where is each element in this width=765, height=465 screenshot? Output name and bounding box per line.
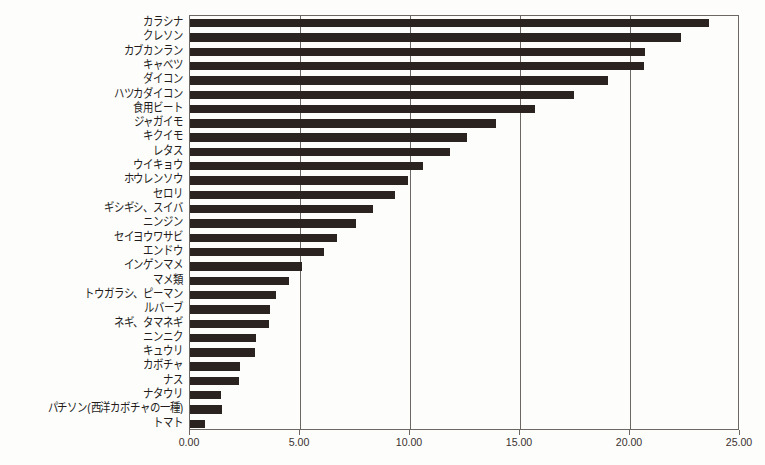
bar-row	[190, 331, 740, 345]
plot-area	[189, 15, 739, 430]
x-tick	[519, 430, 520, 435]
bar-row	[190, 145, 740, 159]
bar	[190, 405, 222, 413]
bar	[190, 320, 269, 328]
bar-rows	[190, 16, 738, 429]
bar	[190, 262, 302, 270]
bar-row	[190, 88, 740, 102]
bar	[190, 62, 644, 70]
bar-row	[190, 102, 740, 116]
bar	[190, 148, 450, 156]
bar-row	[190, 159, 740, 173]
bar-row	[190, 216, 740, 230]
bar-row	[190, 231, 740, 245]
bar	[190, 162, 423, 170]
category-label: トマト	[153, 414, 183, 431]
bar-row	[190, 374, 740, 388]
x-tick-label: 10.00	[396, 436, 423, 448]
bar-row	[190, 402, 740, 416]
bar	[190, 33, 681, 41]
bar-row	[190, 288, 740, 302]
bar-row	[190, 45, 740, 59]
bar	[190, 291, 276, 299]
bar-row	[190, 130, 740, 144]
bar-row	[190, 245, 740, 259]
bar	[190, 133, 467, 141]
bar	[190, 348, 255, 356]
bar-row	[190, 274, 740, 288]
bar	[190, 305, 270, 313]
bar-row	[190, 30, 740, 44]
bar	[190, 19, 709, 27]
bar-chart: カラシナクレソンカブカンランキャベツダイコンハツカダイコン食用ビートジャガイモキ…	[0, 0, 765, 465]
x-tick	[739, 430, 740, 435]
bar	[190, 248, 324, 256]
x-tick	[409, 430, 410, 435]
bar	[190, 391, 221, 399]
x-tick-label: 0.00	[179, 436, 200, 448]
bar	[190, 176, 408, 184]
bar-row	[190, 73, 740, 87]
x-tick	[189, 430, 190, 435]
bar-row	[190, 16, 740, 30]
bar	[190, 234, 337, 242]
bar	[190, 191, 395, 199]
bar-row	[190, 188, 740, 202]
bar-row	[190, 345, 740, 359]
bar	[190, 105, 535, 113]
x-tick	[629, 430, 630, 435]
bar-row	[190, 202, 740, 216]
bar	[190, 334, 256, 342]
x-tick-label: 15.00	[506, 436, 533, 448]
bar	[190, 76, 608, 84]
bar-row	[190, 417, 740, 431]
x-tick	[299, 430, 300, 435]
bar-row	[190, 317, 740, 331]
x-tick-label: 20.00	[616, 436, 643, 448]
bar-row	[190, 173, 740, 187]
bar-row	[190, 116, 740, 130]
bar	[190, 420, 205, 428]
bar-row	[190, 59, 740, 73]
bar-row	[190, 388, 740, 402]
x-axis-tick-labels: 0.005.0010.0015.0020.0025.00	[189, 436, 739, 452]
bar	[190, 48, 645, 56]
bar	[190, 119, 496, 127]
bar	[190, 219, 356, 227]
bar-row	[190, 359, 740, 373]
bar	[190, 91, 574, 99]
bar	[190, 377, 239, 385]
bar	[190, 205, 373, 213]
category-label-column: カラシナクレソンカブカンランキャベツダイコンハツカダイコン食用ビートジャガイモキ…	[0, 15, 186, 430]
bar	[190, 362, 240, 370]
bar	[190, 277, 289, 285]
bar-row	[190, 302, 740, 316]
x-tick-label: 5.00	[289, 436, 310, 448]
bar-row	[190, 259, 740, 273]
x-tick-label: 25.00	[726, 436, 753, 448]
